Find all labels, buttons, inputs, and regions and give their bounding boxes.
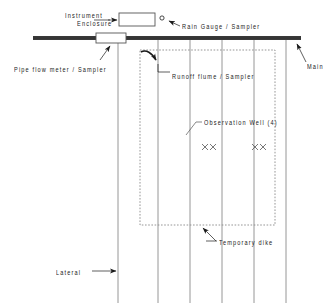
site-plan-diagram: Instrument Enclosure Rain Gauge / Sample… (0, 0, 333, 306)
observation-well-markers (202, 144, 266, 150)
label-temporary-dike: Temporary dike (219, 238, 273, 247)
label-rain-gauge: Rain Gauge / Sampler (182, 22, 260, 31)
runoff-flume-leader (141, 51, 156, 60)
label-observation-well: Observation Well (4) (204, 118, 278, 127)
main-line-leader (297, 44, 306, 62)
rain-gauge-marker (160, 16, 164, 20)
observation-well-marker (260, 144, 266, 150)
observation-well-marker (252, 144, 258, 150)
label-lateral: Lateral (56, 268, 81, 277)
label-main-line: Main (307, 62, 324, 71)
observation-well-marker (210, 144, 216, 150)
label-instrument-enclosure-line2: Enclosure (77, 19, 112, 28)
instrument-enclosure-box (119, 13, 155, 26)
observation-well-marker (202, 144, 208, 150)
diagram-canvas (0, 0, 333, 306)
rain-gauge-leader (169, 21, 180, 26)
observation-well-leader (186, 122, 202, 135)
pipe-flow-meter-box (96, 33, 126, 43)
temporary-dike-leader (203, 228, 216, 241)
label-pipe-flow-meter: Pipe flow meter / Sampler (14, 65, 107, 74)
label-runoff-flume: Runoff flume / Sampler (172, 72, 254, 81)
main-line (33, 37, 301, 40)
pipe-flow-meter-leader (100, 46, 110, 60)
